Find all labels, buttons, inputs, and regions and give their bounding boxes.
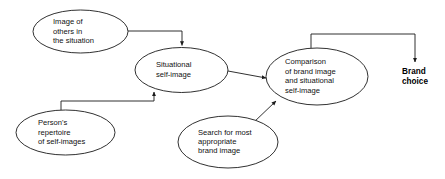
flowchart-svg: Image of others in the situation Situati… (0, 0, 445, 179)
node-image-of-others[interactable]: Image of others in the situation (33, 10, 128, 53)
node-brand-choice[interactable]: Brand choice (402, 67, 428, 86)
node-comparison[interactable]: Comparison of brand image and situationa… (266, 48, 368, 105)
node-search-brand-image[interactable]: Search for most appropriate brand image (178, 116, 278, 168)
edge-repertoire-to-situational (61, 92, 154, 110)
node-situational-self-image-label: Situational self-image (156, 60, 194, 78)
node-situational-self-image[interactable]: Situational self-image (135, 48, 228, 93)
edge-search-to-comparison (253, 101, 276, 123)
node-persons-repertoire[interactable]: Person's repertoire of self-images (16, 110, 115, 155)
diagram-canvas: Image of others in the situation Situati… (0, 0, 445, 179)
edge-situational-to-comparison (228, 71, 266, 78)
edge-others-to-situational (128, 31, 182, 46)
node-brand-choice-label: Brand choice (402, 67, 428, 86)
